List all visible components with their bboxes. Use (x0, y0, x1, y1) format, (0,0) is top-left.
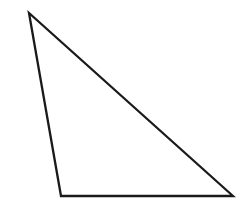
triangle-figure (0, 0, 247, 215)
drawing-canvas (0, 0, 247, 215)
canvas-background (0, 0, 247, 215)
